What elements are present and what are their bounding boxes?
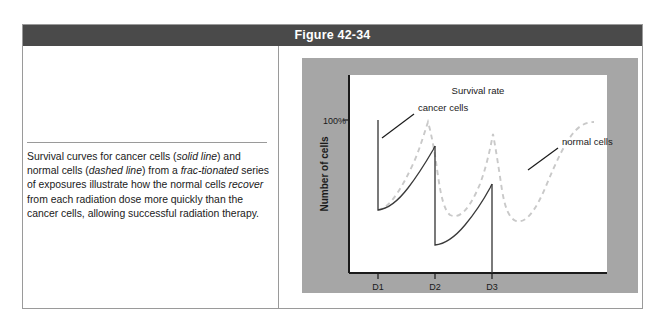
plot-area-background bbox=[349, 75, 607, 273]
caption-run: ) from a bbox=[142, 165, 181, 176]
figure-title: Figure 42-34 bbox=[23, 25, 642, 46]
figure-frame: Figure 42-34 Survival curves for cancer … bbox=[22, 24, 643, 309]
caption-panel: Survival curves for cancer cells (solid … bbox=[23, 46, 279, 308]
cancer-cells-annotation-label: cancer cells bbox=[418, 102, 468, 113]
caption-divider-rule bbox=[27, 142, 267, 143]
caption-emphasis: solid line bbox=[177, 151, 217, 162]
caption-run: from each radiation dose more quickly th… bbox=[27, 194, 259, 219]
y-axis-title: Number of cells bbox=[319, 136, 330, 211]
caption-emphasis: recover bbox=[229, 179, 264, 190]
x-tick-label-d1: D1 bbox=[372, 282, 384, 292]
caption-run: Survival curves for cancer cells ( bbox=[27, 151, 177, 162]
figure-header-bar: Figure 42-34 bbox=[23, 25, 642, 46]
normal-cells-annotation-label: normal cells bbox=[562, 136, 613, 147]
y-tick-label-100: 100% bbox=[323, 116, 346, 126]
x-tick-label-d2: D2 bbox=[429, 282, 441, 292]
chart-panel: Survival rate Number of cells 100% D1 D2… bbox=[280, 46, 642, 308]
survival-rate-chart: Survival rate Number of cells 100% D1 D2… bbox=[302, 58, 638, 293]
x-tick-label-d3: D3 bbox=[486, 282, 498, 292]
caption-emphasis: dashed line bbox=[89, 165, 142, 176]
caption-emphasis: frac-tionated bbox=[181, 165, 239, 176]
chart-title: Survival rate bbox=[452, 85, 505, 96]
figure-caption: Survival curves for cancer cells (solid … bbox=[27, 150, 270, 221]
figure-body: Survival curves for cancer cells (solid … bbox=[23, 46, 642, 308]
